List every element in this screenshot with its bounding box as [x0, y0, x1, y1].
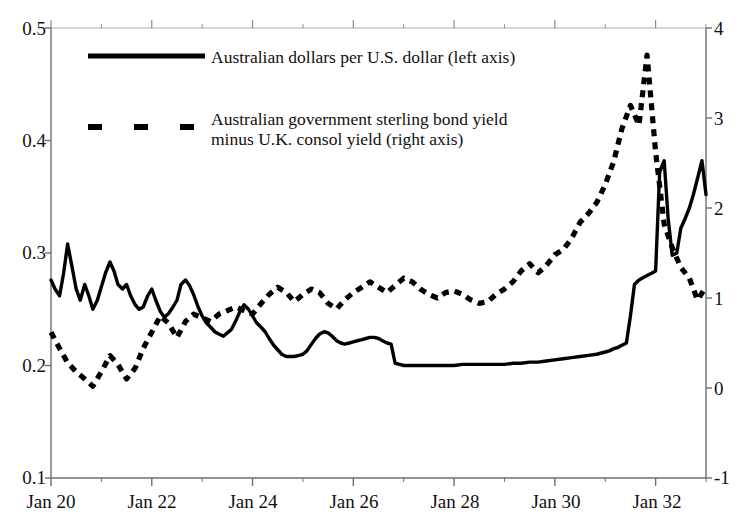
legend-entry-2-label-line1: Australian government sterling bond yiel…	[211, 110, 507, 129]
x-axis-tick-label: Jan 24	[211, 491, 295, 513]
chart-canvas	[0, 0, 741, 531]
y-axis-left-tick-label: 0.3	[2, 242, 46, 264]
y-axis-left-tick-label: 0.1	[2, 467, 46, 489]
y-axis-right-tick-label: 2	[714, 198, 741, 220]
series-line-2	[51, 55, 706, 386]
x-axis-tick-label: Jan 28	[413, 491, 497, 513]
y-axis-right-tick-label: 0	[714, 378, 741, 400]
y-axis-right-tick-label: 3	[714, 108, 741, 130]
y-axis-right-tick-label: -1	[714, 467, 741, 489]
x-axis-tick-label: Jan 22	[110, 491, 194, 513]
y-axis-left-tick-label: 0.2	[2, 355, 46, 377]
x-axis-tick-label: Jan 26	[312, 491, 396, 513]
y-axis-left-tick-label: 0.4	[2, 130, 46, 152]
chart-figure: 0.5 0.4 0.3 0.2 0.1 4 3 2 1 0 -1 Jan 20 …	[0, 0, 741, 531]
x-axis-tick-label: Jan 30	[514, 491, 598, 513]
y-axis-left-tick-label: 0.5	[2, 18, 46, 40]
y-axis-right-tick-label: 4	[714, 18, 741, 40]
y-axis-right-tick-label: 1	[714, 288, 741, 310]
legend-entry-1-label: Australian dollars per U.S. dollar (left…	[211, 48, 515, 67]
x-axis-tick-label: Jan 32	[615, 491, 699, 513]
x-axis-tick-label: Jan 20	[9, 491, 93, 513]
legend-entry-2-label-line2: minus U.K. consol yield (right axis)	[211, 130, 463, 149]
